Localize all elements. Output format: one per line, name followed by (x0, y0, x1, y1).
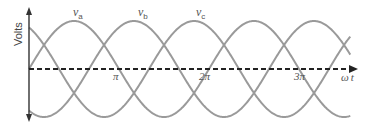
tick-label-2pi: 2π (199, 70, 211, 82)
y-axis-label: Volts (12, 22, 24, 46)
tick-label-pi: π (113, 70, 119, 82)
x-axis-label: ωt (341, 71, 355, 83)
label-va: va (73, 5, 83, 21)
tick-label-3pi: 3π (293, 70, 306, 82)
label-vb: vb (138, 5, 148, 21)
y-axis-down-arrow-icon (26, 114, 32, 122)
label-vc: vc (196, 5, 205, 21)
waveform-plot: Volts π 2π 3π ωt va vb vc (0, 0, 374, 126)
y-axis-up-arrow-icon (26, 7, 32, 15)
three-phase-waveform-diagram: Volts π 2π 3π ωt va vb vc (0, 0, 374, 126)
